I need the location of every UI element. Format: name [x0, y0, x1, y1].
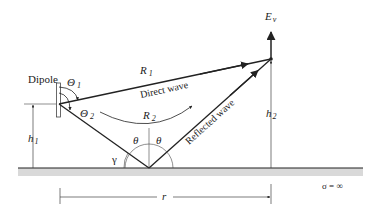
- dipole-label: Dipole: [28, 73, 58, 85]
- dipole-antenna: [57, 83, 61, 117]
- reflected-wave-label: Reflected wave: [183, 97, 237, 147]
- r1-label: R1: [139, 64, 153, 78]
- r-label: r: [162, 190, 167, 202]
- direct-wave-ray: [59, 59, 271, 104]
- theta1-label: Θ1: [67, 76, 81, 90]
- ground-plane: [18, 168, 363, 176]
- h1-label: h1: [28, 132, 39, 146]
- reflection-diagram: Dipole Θ1 Θ2 R1 Direct wave R2 Reflected…: [0, 0, 377, 212]
- h2-label: h2: [266, 107, 277, 121]
- ev-label: Ev: [264, 10, 277, 24]
- r2-label: R2: [142, 109, 156, 123]
- conductivity-label: σ = ∞: [322, 181, 343, 191]
- theta-right-label: θ: [156, 134, 162, 146]
- theta2-label: Θ2: [80, 107, 94, 121]
- gamma-label: γ: [111, 153, 117, 165]
- receiver-field-vector: [269, 32, 273, 61]
- theta-left-label: θ: [133, 134, 139, 146]
